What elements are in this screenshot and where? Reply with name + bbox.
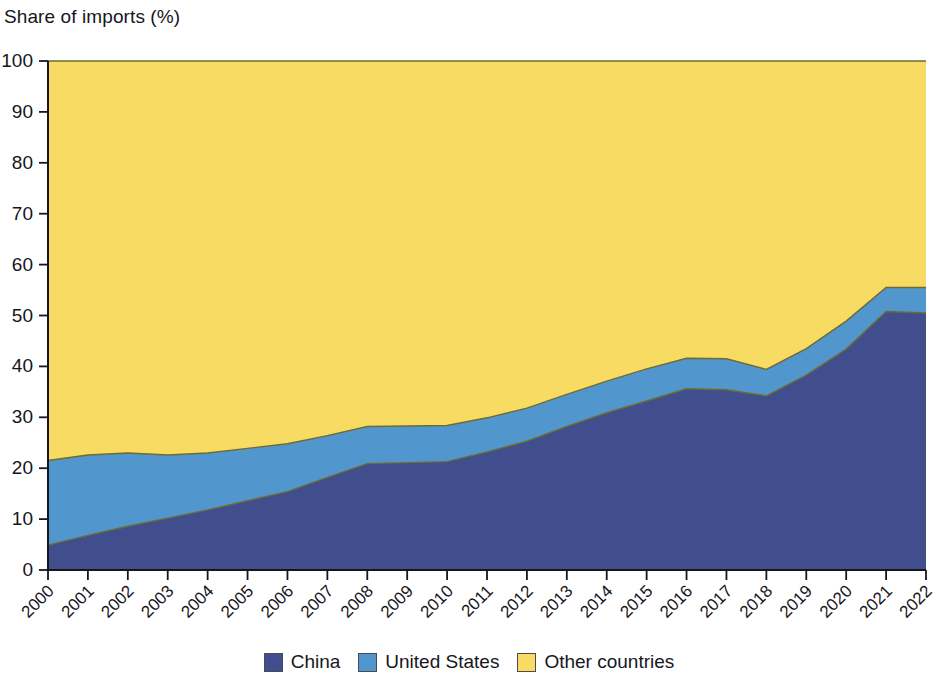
x-tick-label: 2005: [217, 581, 257, 621]
x-tick-label: 2018: [736, 581, 776, 621]
x-tick-label: 2001: [58, 581, 98, 621]
area-series-group: [48, 61, 926, 570]
legend-label-other-countries: Other countries: [544, 651, 674, 673]
legend-item-other-countries[interactable]: Other countries: [517, 651, 674, 673]
x-tick-label: 2019: [776, 581, 816, 621]
legend-item-united-states[interactable]: United States: [358, 651, 499, 673]
x-tick-label: 2017: [696, 581, 736, 621]
x-tick-label: 2014: [576, 581, 616, 621]
x-tick-label: 2002: [97, 581, 137, 621]
y-tick-label: 80: [12, 152, 33, 173]
x-tick-label: 2009: [377, 581, 417, 621]
y-tick-label: 10: [12, 508, 33, 529]
x-tick-label: 2015: [616, 581, 656, 621]
y-tick-label: 70: [12, 203, 33, 224]
stacked-area-plot: 0102030405060708090100 20002001200220032…: [0, 0, 938, 681]
y-tick-label: 100: [1, 50, 33, 71]
x-tick-label: 2013: [536, 581, 576, 621]
y-tick-label: 0: [22, 559, 33, 580]
x-tick-label: 2003: [137, 581, 177, 621]
chart-legend: China United States Other countries: [0, 651, 938, 673]
x-tick-label: 2010: [417, 581, 457, 621]
x-tick-label: 2022: [896, 581, 936, 621]
y-tick-label: 60: [12, 254, 33, 275]
y-axis-ticks: 0102030405060708090100: [1, 50, 48, 580]
legend-item-china[interactable]: China: [264, 651, 341, 673]
x-tick-label: 2008: [337, 581, 377, 621]
y-tick-label: 30: [12, 406, 33, 427]
legend-label-united-states: United States: [385, 651, 499, 673]
x-tick-label: 2012: [497, 581, 537, 621]
chart-container: Share of imports (%) 0102030405060708090…: [0, 0, 938, 681]
y-tick-label: 40: [12, 355, 33, 376]
x-axis-ticks: 2000200120022003200420052006200720082009…: [18, 570, 936, 622]
x-tick-label: 2006: [257, 581, 297, 621]
x-tick-label: 2004: [177, 581, 217, 621]
x-tick-label: 2016: [656, 581, 696, 621]
x-tick-label: 2011: [458, 581, 497, 620]
legend-swatch-other-countries: [517, 653, 536, 672]
x-tick-label: 2007: [297, 581, 337, 621]
legend-swatch-china: [264, 653, 283, 672]
legend-swatch-united-states: [358, 653, 377, 672]
legend-label-china: China: [291, 651, 341, 673]
y-tick-label: 20: [12, 457, 33, 478]
y-tick-label: 90: [12, 101, 33, 122]
x-tick-label: 2020: [816, 581, 856, 621]
x-tick-label: 2000: [18, 581, 58, 621]
y-tick-label: 50: [12, 305, 33, 326]
x-tick-label: 2021: [856, 581, 896, 621]
